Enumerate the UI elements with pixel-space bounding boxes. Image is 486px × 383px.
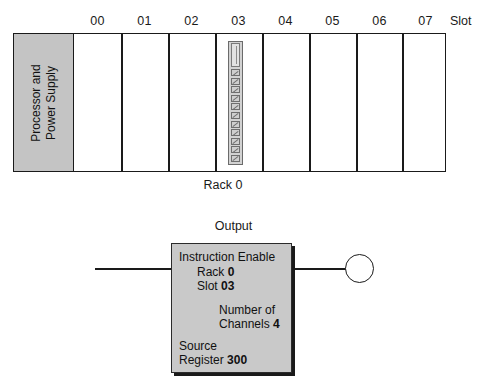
io-terminal-screw <box>231 129 240 136</box>
slot-axis-label: Slot <box>450 14 472 28</box>
instruction-channels-row: Channels 4 <box>179 317 284 332</box>
slot-divider-06-07 <box>402 34 404 171</box>
rack-body: Processor and Power Supply <box>13 33 446 172</box>
slot-label-07: 07 <box>402 14 449 28</box>
psu-label-line-2: Power Supply <box>44 65 58 139</box>
output-instruction-block: Instruction Enable Rack 0 Slot 03 Number… <box>171 243 292 373</box>
instruction-rack-label: Rack <box>197 265 224 279</box>
instruction-slot-row: Slot 03 <box>179 279 284 294</box>
output-coil-icon <box>345 254 374 283</box>
io-terminal-screw <box>231 112 240 119</box>
instruction-register-label: Register <box>179 353 224 367</box>
instruction-channels-label-line-1: Number of <box>179 303 284 318</box>
instruction-register-value: 300 <box>227 353 247 367</box>
instruction-slot-value: 03 <box>221 279 234 293</box>
io-terminal-screw <box>231 103 240 110</box>
io-terminal-screw <box>231 78 240 85</box>
io-module-slot-03 <box>228 41 243 165</box>
io-module-terminal-block <box>230 68 241 163</box>
io-terminal-screw <box>231 86 240 93</box>
slot-label-02: 02 <box>168 14 215 28</box>
slot-label-03: 03 <box>215 14 262 28</box>
ladder-rung-diagram: Output Instruction Enable Rack 0 Slot 03… <box>0 200 486 383</box>
output-caption: Output <box>175 219 292 233</box>
rack-caption: Rack 0 <box>0 178 446 192</box>
slot-label-04: 04 <box>262 14 309 28</box>
instruction-title: Instruction Enable <box>179 250 284 265</box>
slot-label-06: 06 <box>356 14 403 28</box>
slot-divider-01-02 <box>168 34 170 171</box>
io-terminal-screw <box>231 121 240 128</box>
io-terminal-screw <box>231 95 240 102</box>
plc-rack-output-instruction-diagram: 00 01 02 03 04 05 06 07 Slot Processor a… <box>0 0 486 383</box>
slot-divider-02-03 <box>215 34 217 171</box>
instruction-rack-row: Rack 0 <box>179 265 284 280</box>
slot-label-01: 01 <box>121 14 168 28</box>
instruction-source-label: Source <box>179 339 284 354</box>
rack-diagram: 00 01 02 03 04 05 06 07 Slot Processor a… <box>0 0 486 200</box>
io-module-head <box>231 43 240 67</box>
instruction-rack-value: 0 <box>228 265 235 279</box>
instruction-channels-value: 4 <box>273 317 280 331</box>
slot-divider-03-04 <box>262 34 264 171</box>
io-terminal-screw <box>231 138 240 145</box>
io-terminal-screw <box>231 146 240 153</box>
slot-divider-04-05 <box>309 34 311 171</box>
slot-divider-05-06 <box>356 34 358 171</box>
instruction-slot-label: Slot <box>197 279 218 293</box>
rung-input-wire <box>95 268 172 270</box>
io-terminal-screw <box>231 69 240 76</box>
instruction-register-row: Register 300 <box>179 353 284 368</box>
processor-power-supply-block: Processor and Power Supply <box>14 34 74 171</box>
slot-label-00: 00 <box>74 14 121 28</box>
processor-power-supply-label: Processor and Power Supply <box>29 64 59 141</box>
psu-label-line-1: Processor and <box>29 64 43 141</box>
rung-output-wire <box>292 268 346 270</box>
slot-label-05: 05 <box>309 14 356 28</box>
slot-divider-00-01 <box>121 34 123 171</box>
instruction-channels-label: Channels <box>219 317 270 331</box>
io-terminal-screw <box>231 155 240 162</box>
